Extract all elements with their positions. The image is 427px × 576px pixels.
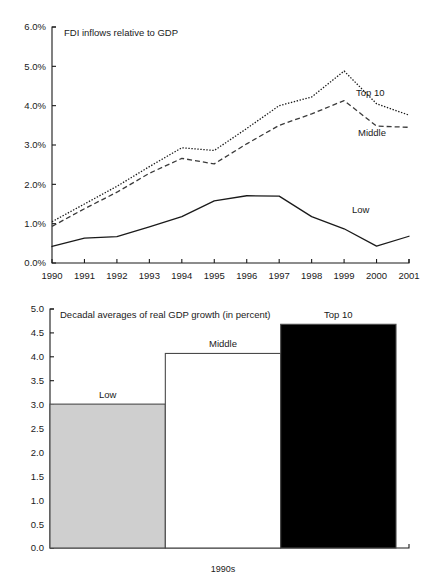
y-tick-label: 4.5 (31, 327, 44, 338)
y-tick-label: 0.0 (31, 542, 44, 553)
y-tick-label: 6.0% (24, 21, 46, 32)
y-tick-label: 3.5 (31, 375, 44, 386)
y-tick-label: 1.0 (31, 495, 44, 506)
bar-label-low: Low (99, 389, 117, 400)
x-tick-label: 1992 (106, 270, 127, 281)
x-tick-label: 1995 (204, 270, 225, 281)
y-tick-label: 2.0 (31, 447, 44, 458)
bar-middle (165, 353, 280, 548)
series-label-low: Low (352, 204, 370, 215)
x-tick-label: 1999 (334, 270, 355, 281)
y-tick-label: 3.0% (24, 139, 46, 150)
y-tick-label: 2.5 (31, 423, 44, 434)
x-tick-label: 1997 (269, 270, 290, 281)
x-tick-label: 1996 (236, 270, 257, 281)
series-label-middle: Middle (358, 127, 386, 138)
x-tick-label: 1993 (139, 270, 160, 281)
bar-label-top-10: Top 10 (324, 309, 353, 320)
x-tick-label: 1998 (301, 270, 322, 281)
fdi-inflows-line-chart: 0.0%1.0%2.0%3.0%4.0%5.0%6.0%199019911992… (0, 0, 427, 290)
gdp-growth-bar-chart: 0.00.51.01.52.02.53.03.54.04.55.0LowMidd… (0, 290, 427, 576)
y-tick-label: 1.0% (24, 218, 46, 229)
y-tick-label: 0.5 (31, 519, 44, 530)
x-tick-label: 1994 (171, 270, 192, 281)
x-tick-label: 1991 (74, 270, 95, 281)
line-chart-title: FDI inflows relative to GDP (64, 27, 178, 38)
bar-label-middle: Middle (209, 338, 237, 349)
y-tick-label: 5.0 (31, 303, 44, 314)
x-tick-label: 1990 (41, 270, 62, 281)
x-tick-label: 2001 (398, 270, 419, 281)
y-tick-label: 1.5 (31, 471, 44, 482)
bar-top-10 (281, 324, 396, 548)
series-label-top-10: Top 10 (356, 87, 385, 98)
y-tick-label: 5.0% (24, 61, 46, 72)
y-tick-label: 2.0% (24, 179, 46, 190)
y-tick-label: 4.0% (24, 100, 46, 111)
y-tick-label: 3.0 (31, 399, 44, 410)
bar-chart-title: Decadal averages of real GDP growth (in … (60, 309, 271, 320)
figure-container: 0.0%1.0%2.0%3.0%4.0%5.0%6.0%199019911992… (0, 0, 427, 576)
bar-low (50, 404, 165, 548)
x-tick-label: 2000 (366, 270, 387, 281)
x-axis-label: 1990s (211, 564, 236, 574)
y-tick-label: 4.0 (31, 351, 44, 362)
y-tick-label: 0.0% (24, 257, 46, 268)
axis-spine (52, 27, 409, 263)
